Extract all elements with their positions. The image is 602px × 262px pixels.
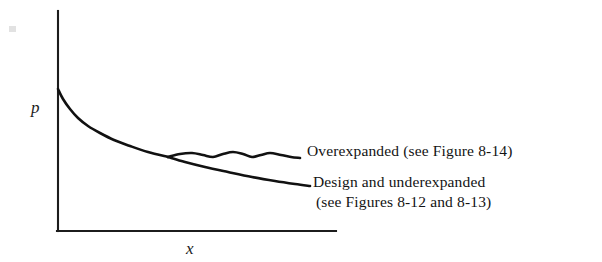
label-design-line-2: (see Figures 8-12 and 8-13)	[313, 192, 491, 212]
label-design-underexpanded: Design and underexpanded (see Figures 8-…	[313, 172, 491, 212]
label-design-line-1: Design and underexpanded	[313, 173, 485, 190]
annotation-layer: Overexpanded (see Figure 8-14) Design an…	[0, 0, 602, 262]
label-overexpanded: Overexpanded (see Figure 8-14)	[307, 141, 513, 161]
pressure-distribution-figure: p x Overexpanded (see Figure 8-14) Desig…	[0, 0, 602, 262]
